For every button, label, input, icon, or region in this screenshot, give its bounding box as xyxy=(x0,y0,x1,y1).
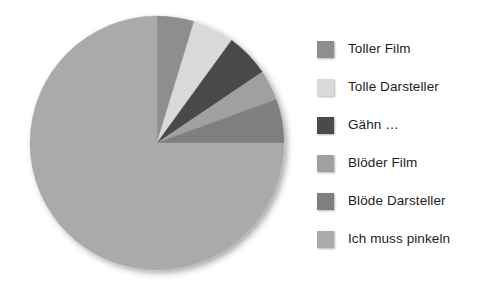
pie-chart-plot-area xyxy=(0,0,300,292)
legend-color-swatch xyxy=(317,117,334,134)
pie-slice-group xyxy=(30,16,284,270)
legend-item-label: Gähn … xyxy=(348,118,399,132)
legend-item-label: Ich muss pinkeln xyxy=(348,232,450,246)
chart-legend: Toller FilmTolle DarstellerGähn …Blöder … xyxy=(317,30,492,258)
pie-chart-figure: Toller FilmTolle DarstellerGähn …Blöder … xyxy=(0,0,495,292)
legend-item[interactable]: Blöde Darsteller xyxy=(317,182,492,220)
legend-item-label: Tolle Darsteller xyxy=(348,80,439,94)
legend-item-label: Blöde Darsteller xyxy=(348,194,446,208)
legend-color-swatch xyxy=(317,193,334,210)
legend-item[interactable]: Toller Film xyxy=(317,30,492,68)
legend-item[interactable]: Gähn … xyxy=(317,106,492,144)
legend-color-swatch xyxy=(317,41,334,58)
legend-item[interactable]: Blöder Film xyxy=(317,144,492,182)
pie-chart-svg xyxy=(0,0,300,292)
legend-item-label: Blöder Film xyxy=(348,156,417,170)
legend-item-label: Toller Film xyxy=(348,42,411,56)
legend-item[interactable]: Tolle Darsteller xyxy=(317,68,492,106)
legend-color-swatch xyxy=(317,155,334,172)
legend-color-swatch xyxy=(317,231,334,248)
legend-color-swatch xyxy=(317,79,334,96)
legend-item[interactable]: Ich muss pinkeln xyxy=(317,220,492,258)
